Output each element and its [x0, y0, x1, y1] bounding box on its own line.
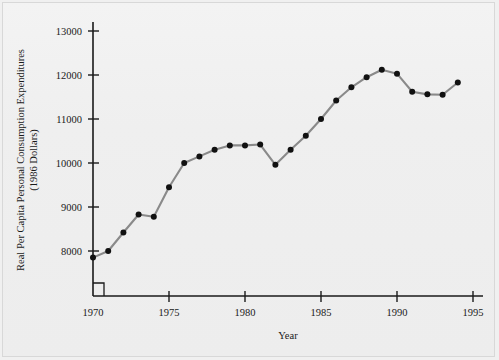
data-point: [227, 142, 233, 148]
data-point: [105, 248, 111, 254]
data-point: [166, 184, 172, 190]
data-point: [181, 160, 187, 166]
data-point: [303, 133, 309, 139]
plot-area: 8000 9000 10000 11000 12000 13000 1970 1…: [0, 0, 499, 360]
x-tick-label-1985: 1985: [311, 307, 332, 318]
data-point: [90, 255, 96, 261]
y-tick-label-12000: 12000: [56, 70, 82, 81]
data-point: [288, 147, 294, 153]
y-axis-title: Real Per Capita Personal Consumption Exp…: [15, 49, 26, 271]
data-point: [318, 116, 324, 122]
data-point: [242, 142, 248, 148]
x-axis-title: Year: [278, 330, 298, 341]
x-tick-label-1980: 1980: [235, 307, 256, 318]
axis-break-marker: [93, 283, 104, 296]
y-tick-label-13000: 13000: [56, 26, 82, 37]
data-point: [394, 71, 400, 77]
y-tick-label-10000: 10000: [56, 158, 82, 169]
data-point: [424, 91, 430, 97]
data-series-points: [90, 67, 461, 261]
y-tick-label-8000: 8000: [61, 246, 82, 257]
x-axis-tick-labels: 1970 1975 1980 1985 1990 1995: [83, 307, 484, 318]
data-point: [272, 162, 278, 168]
data-point: [136, 211, 142, 217]
data-point: [120, 230, 126, 236]
data-point: [257, 142, 263, 148]
x-tick-label-1995: 1995: [463, 307, 484, 318]
data-point: [348, 84, 354, 90]
y-tick-label-11000: 11000: [56, 114, 82, 125]
chart-svg: 8000 9000 10000 11000 12000 13000 1970 1…: [0, 0, 499, 360]
data-point: [455, 79, 461, 85]
data-point: [409, 89, 415, 95]
y-axis-tick-labels: 8000 9000 10000 11000 12000 13000: [56, 26, 82, 257]
data-point: [196, 153, 202, 159]
data-point: [379, 67, 385, 73]
x-tick-label-1975: 1975: [159, 307, 180, 318]
data-point: [364, 74, 370, 80]
x-tick-label-1990: 1990: [387, 307, 408, 318]
data-point: [440, 92, 446, 98]
data-point: [151, 214, 157, 220]
x-tick-label-1970: 1970: [83, 307, 104, 318]
data-point: [333, 98, 339, 104]
data-point: [212, 147, 218, 153]
y-axis-title-units: (1986 Dollars): [28, 129, 40, 191]
chart-figure: 8000 9000 10000 11000 12000 13000 1970 1…: [0, 0, 499, 360]
y-tick-label-9000: 9000: [61, 202, 82, 213]
